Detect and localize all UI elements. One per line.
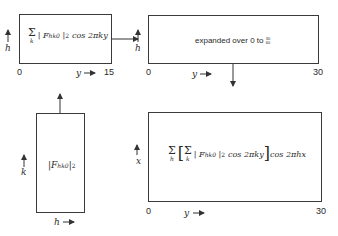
power: 2 bbox=[72, 162, 76, 169]
box2-x-axis-label: y bbox=[192, 70, 197, 79]
box2-text: expanded over 0 to 30 60 bbox=[195, 37, 270, 45]
box3-formula: |Fhk0|2 bbox=[48, 160, 76, 170]
outer-sum-index: h bbox=[170, 156, 174, 161]
outer-cos-term: cos 2πhx bbox=[270, 150, 306, 159]
box2-x-end: 30 bbox=[313, 68, 323, 77]
box4-x-end: 30 bbox=[316, 207, 326, 216]
box4-x-axis-label: y bbox=[184, 209, 189, 218]
box2-vertical-axis-label: h bbox=[135, 44, 141, 53]
fraction-denominator: 60 bbox=[266, 41, 270, 45]
box3-vertical-axis-label: k bbox=[21, 168, 26, 177]
power: 2 bbox=[65, 32, 69, 39]
inner-sum-index: k bbox=[186, 156, 190, 161]
f-subscript: hk0 bbox=[57, 162, 68, 169]
box1-x-axis-label: y bbox=[76, 69, 81, 78]
inner-cos-term: cos 2πky bbox=[228, 150, 264, 159]
box4-formula: Σh [ Σk | Fhk0 |2 cos 2πky ] cos 2πhx bbox=[168, 146, 306, 162]
box1-formula: Σk | Fhk0 |2 cos 2πky bbox=[28, 28, 108, 43]
box1-x-start: 0 bbox=[17, 68, 22, 77]
f-subscript: hk0 bbox=[205, 151, 216, 158]
expanded-text: expanded over 0 to bbox=[195, 36, 264, 45]
power: 2 bbox=[221, 151, 225, 158]
box3-h-axis-label: h bbox=[54, 218, 60, 227]
box4-x-start: 0 bbox=[146, 207, 151, 216]
cos-term: cos 2πky bbox=[72, 31, 108, 40]
box1-x-end: 15 bbox=[104, 68, 114, 77]
f-subscript: hk0 bbox=[49, 32, 60, 39]
box2-x-start: 0 bbox=[146, 68, 151, 77]
sum-index: k bbox=[30, 38, 34, 43]
fraction: 30 60 bbox=[266, 37, 270, 44]
box4-vertical-axis-label: x bbox=[136, 157, 141, 166]
box1-vertical-axis-label: h bbox=[5, 44, 11, 53]
